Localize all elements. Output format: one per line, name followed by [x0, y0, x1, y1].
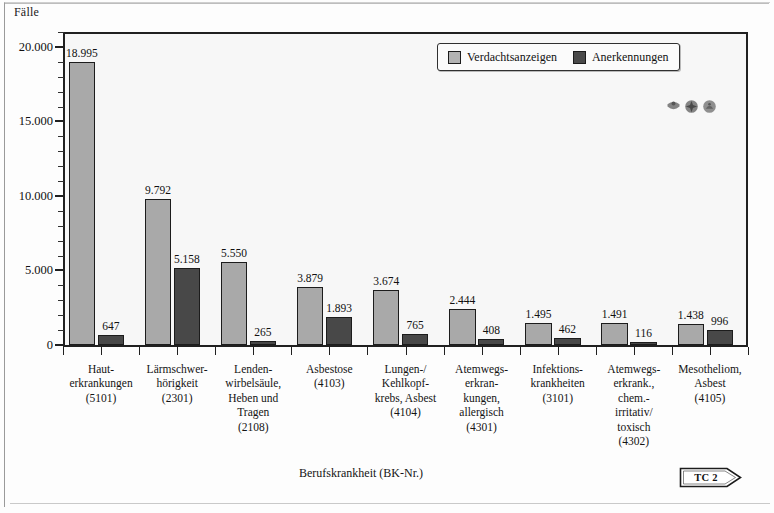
- x-axis-tick: [748, 347, 749, 355]
- y-axis-minor-tick: [58, 315, 64, 316]
- x-axis-tick: [520, 347, 521, 355]
- bar-value-label: 3.879: [297, 272, 323, 284]
- bar-anerkennungen-4105: [707, 330, 733, 345]
- x-axis-label-line: Mesotheliom,: [665, 362, 755, 376]
- x-axis-tick: [672, 347, 673, 355]
- bar-value-label: 1.438: [678, 309, 704, 321]
- x-axis-tick: [215, 347, 216, 355]
- x-axis-tick: [596, 347, 597, 355]
- bar-anerkennungen-2301: [174, 268, 200, 345]
- x-axis-tick: [710, 347, 711, 355]
- y-axis-minor-tick: [58, 32, 64, 33]
- x-axis-label-line: (4301): [437, 420, 527, 434]
- y-axis-tick-label: 10.000: [0, 188, 53, 203]
- bar-value-label: 5.158: [174, 253, 200, 265]
- bar-verdachtsanzeigen-4302: [601, 323, 627, 345]
- x-axis-tick: [444, 347, 445, 355]
- bar-verdachtsanzeigen-4103: [297, 287, 323, 345]
- y-axis-minor-tick: [58, 151, 64, 152]
- x-axis-tick: [634, 347, 635, 355]
- bar-value-label: 1.495: [526, 308, 552, 320]
- y-axis-minor-tick: [58, 136, 64, 137]
- bar-anerkennungen-4104: [402, 334, 428, 345]
- y-axis-minor-tick: [58, 107, 64, 108]
- bar-value-label: 18.995: [66, 47, 98, 59]
- x-axis-label-line: toxisch: [589, 420, 679, 434]
- y-axis-major-tick: [55, 269, 65, 271]
- tc-badge: TC 2: [679, 467, 743, 488]
- y-axis-labels: 05.00010.00015.00020.000: [0, 0, 53, 513]
- y-axis-minor-tick: [58, 285, 64, 286]
- y-axis-tick-label: 20.000: [0, 39, 53, 54]
- bar-verdachtsanzeigen-4301: [449, 309, 475, 345]
- y-axis-major-tick: [55, 120, 65, 122]
- chart-screenshot: Fälle 05.00010.00015.00020.000 18.995647…: [0, 0, 774, 513]
- x-axis-label-line: Tragen: [208, 405, 298, 419]
- bar-anerkennungen-5101: [98, 335, 124, 345]
- x-axis-label-line: Heben und: [208, 391, 298, 405]
- y-axis-minor-tick: [58, 256, 64, 257]
- x-axis-label-line: allergisch: [437, 405, 527, 419]
- legend-item-verdachtsanzeigen: Verdachtsanzeigen: [448, 50, 557, 65]
- legend-swatch-icon-verdachtsanzeigen: [448, 51, 461, 64]
- x-axis-category-label-4105: Mesotheliom,Asbest(4105): [665, 362, 755, 405]
- x-axis-tick: [367, 347, 368, 355]
- legend-item-anerkennungen: Anerkennungen: [573, 50, 669, 65]
- bar-anerkennungen-4301: [478, 339, 504, 345]
- bar-value-label: 1.893: [326, 302, 352, 314]
- x-axis-tick: [558, 347, 559, 355]
- bar-verdachtsanzeigen-5101: [69, 62, 95, 345]
- bar-value-label: 408: [483, 324, 500, 336]
- y-axis-major-tick: [55, 195, 65, 197]
- bar-value-label: 765: [407, 319, 424, 331]
- legend-swatch-icon-anerkennungen: [573, 51, 586, 64]
- bar-value-label: 647: [102, 320, 119, 332]
- x-axis-tick: [406, 347, 407, 355]
- bar-value-label: 9.792: [145, 184, 171, 196]
- x-axis-title: Berufskrankheit (BK-Nr.): [299, 466, 423, 481]
- y-axis-minor-tick: [58, 77, 64, 78]
- emblem-crest-icon: [666, 99, 681, 114]
- x-axis-label-line: Asbest: [665, 376, 755, 390]
- bar-verdachtsanzeigen-2108: [221, 262, 247, 345]
- x-axis-tick: [139, 347, 140, 355]
- x-axis-label-line: (4105): [665, 391, 755, 405]
- bar-verdachtsanzeigen-2301: [145, 199, 171, 345]
- page-border-bottom: [10, 503, 770, 504]
- bar-value-label: 462: [559, 323, 576, 335]
- y-axis-minor-tick: [58, 166, 64, 167]
- tc-badge-label: TC 2: [679, 467, 733, 488]
- x-axis-tick: [482, 347, 483, 355]
- y-axis-tick-label: 0: [0, 338, 53, 353]
- x-axis-tick: [291, 347, 292, 355]
- y-axis-tick-label: 5.000: [0, 263, 53, 278]
- bar-verdachtsanzeigen-3101: [525, 323, 551, 345]
- bar-anerkennungen-4302: [630, 342, 656, 345]
- x-axis-label-line: (4302): [589, 434, 679, 448]
- y-axis-tick-label: 15.000: [0, 114, 53, 129]
- x-axis-tick: [253, 347, 254, 355]
- emblem-group: [666, 99, 717, 114]
- y-axis-minor-tick: [58, 300, 64, 301]
- x-axis-tick: [101, 347, 102, 355]
- bar-verdachtsanzeigen-4105: [678, 324, 704, 345]
- bar-value-label: 996: [711, 315, 728, 327]
- bar-value-label: 265: [254, 326, 271, 338]
- bar-value-label: 5.550: [221, 247, 247, 259]
- legend-label-anerkennungen: Anerkennungen: [592, 50, 669, 65]
- x-axis-tick: [177, 347, 178, 355]
- emblem-star-cross-icon: [684, 99, 699, 114]
- bar-anerkennungen-4103: [326, 317, 352, 345]
- bar-value-label: 1.491: [602, 308, 628, 320]
- y-axis-minor-tick: [58, 211, 64, 212]
- x-axis-label-line: (2108): [208, 420, 298, 434]
- y-axis-minor-tick: [58, 92, 64, 93]
- x-axis-label-line: irritativ/: [589, 405, 679, 419]
- y-axis-minor-tick: [58, 241, 64, 242]
- y-axis-major-tick: [55, 344, 65, 346]
- bar-value-label: 2.444: [449, 294, 475, 306]
- y-axis-minor-tick: [58, 330, 64, 331]
- bar-anerkennungen-2108: [250, 341, 276, 345]
- y-axis-minor-tick: [58, 181, 64, 182]
- y-axis-minor-tick: [58, 62, 64, 63]
